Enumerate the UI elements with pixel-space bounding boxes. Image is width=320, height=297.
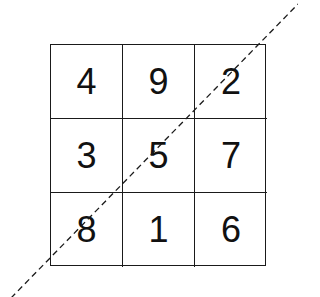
cell-r2-c1: 3 (51, 119, 123, 193)
magic-square-grid: 4 9 2 3 5 7 8 1 6 (50, 44, 266, 266)
cell-r2-c2: 5 (123, 119, 195, 193)
cell-r1-c2: 9 (123, 45, 195, 119)
cell-r3-c2: 1 (123, 193, 195, 267)
cell-r1-c1: 4 (51, 45, 123, 119)
cell-r1-c3: 2 (195, 45, 267, 119)
cell-r3-c1: 8 (51, 193, 123, 267)
cell-r2-c3: 7 (195, 119, 267, 193)
cell-r3-c3: 6 (195, 193, 267, 267)
